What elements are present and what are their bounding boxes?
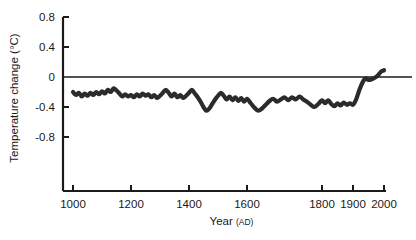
x-axis-title: Year (AD) <box>210 215 254 227</box>
chart-canvas: 0.80.40-0.4-0.8 100012001400160018001900… <box>0 0 416 240</box>
x-axis-title-suffix: (AD) <box>236 217 254 227</box>
y-tick-label: -0.4 <box>35 101 55 113</box>
x-axis-title-main: Year <box>210 215 233 227</box>
x-tick-label: 1900 <box>340 198 366 210</box>
x-tick-label: 1600 <box>234 198 260 210</box>
y-tick-label: 0 <box>49 71 55 83</box>
y-tick-label: 0.8 <box>39 11 55 23</box>
y-axis-title: Temperature change (°C) <box>8 33 20 162</box>
y-tick-label: 0.4 <box>39 41 56 53</box>
x-tick-label: 1000 <box>60 198 86 210</box>
x-axis: 1000120014001600180019002000 <box>60 185 397 210</box>
x-axis-tick-labels: 1000120014001600180019002000 <box>60 198 397 210</box>
y-axis: 0.80.40-0.4-0.8 <box>35 11 69 191</box>
y-tick-label: -0.8 <box>35 131 55 143</box>
y-axis-tick-labels: 0.80.40-0.4-0.8 <box>35 11 55 143</box>
temperature-reconstruction-chart: 0.80.40-0.4-0.8 100012001400160018001900… <box>0 0 416 240</box>
x-tick-label: 2000 <box>371 198 397 210</box>
x-tick-label: 1200 <box>118 198 144 210</box>
x-tick-label: 1800 <box>309 198 335 210</box>
x-tick-label: 1400 <box>176 198 202 210</box>
